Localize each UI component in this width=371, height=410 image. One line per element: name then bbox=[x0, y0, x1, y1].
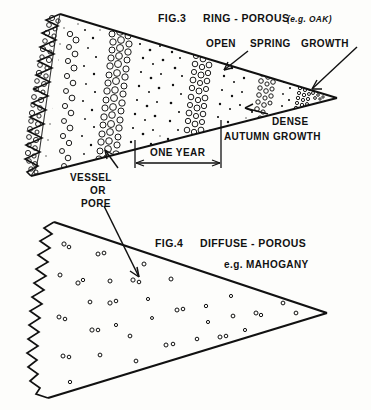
fig4-bottom-edge bbox=[48, 313, 327, 398]
figure-4-group: FIG.4 DIFFUSE - POROUS e.g. MAHOGANY bbox=[27, 206, 327, 398]
fig3-autumn-growth-dots bbox=[81, 29, 291, 163]
fig3-label-pore: PORE bbox=[81, 198, 111, 209]
fig3-annotation-arrows bbox=[105, 47, 357, 168]
fig3-title: RING - POROUS bbox=[203, 12, 289, 24]
fig3-label-vessel: VESSEL bbox=[70, 172, 112, 183]
fig3-label-spring-spring: SPRING bbox=[250, 38, 291, 49]
figure-3-group: FIG.3 RING - POROUS (e.g. OAK) OPEN SPRI… bbox=[25, 12, 357, 209]
fig4-example: e.g. MAHOGANY bbox=[224, 259, 309, 270]
wood-structure-figure-sheet: FIG.3 RING - POROUS (e.g. OAK) OPEN SPRI… bbox=[0, 0, 371, 410]
fig3-label-dense: DENSE bbox=[272, 116, 308, 127]
fig3-label-one-year: ONE YEAR bbox=[150, 147, 206, 158]
fig4-number: FIG.4 bbox=[155, 237, 183, 249]
fig3-label-autumn-growth: AUTUMN GROWTH bbox=[224, 131, 321, 142]
fig3-example: (e.g. OAK) bbox=[287, 14, 332, 24]
fig3-dense-arrow-head bbox=[245, 104, 253, 111]
fig3-label-spring-growth: GROWTH bbox=[301, 38, 349, 49]
fig3-one-year-bracket bbox=[135, 120, 221, 168]
fig4-title: DIFFUSE - POROUS bbox=[200, 237, 306, 249]
fig3-apex-arrow-line bbox=[312, 47, 357, 89]
fig3-number: FIG.3 bbox=[158, 12, 186, 24]
fig3-label-spring-open: OPEN bbox=[206, 38, 236, 49]
fig4-bark-edge bbox=[27, 222, 54, 398]
figures-svg: FIG.3 RING - POROUS (e.g. OAK) OPEN SPRI… bbox=[0, 0, 371, 410]
fig3-label-or: OR bbox=[90, 185, 106, 196]
